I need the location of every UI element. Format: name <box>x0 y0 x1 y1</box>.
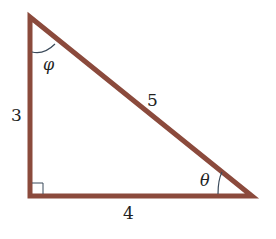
right-triangle-diagram: 3 5 4 φ θ <box>0 0 276 239</box>
triangle <box>30 17 252 196</box>
right-angle-marker <box>32 183 43 194</box>
angle-label-phi: φ <box>43 55 55 74</box>
side-label-hypotenuse: 5 <box>147 90 158 110</box>
angle-label-theta: θ <box>200 171 210 190</box>
phi-angle-arc <box>32 44 55 53</box>
theta-angle-arc <box>218 172 222 194</box>
side-label-horizontal: 4 <box>123 203 134 223</box>
side-label-vertical: 3 <box>11 105 22 125</box>
